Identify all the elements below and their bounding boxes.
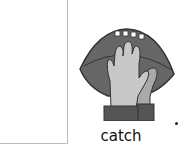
period-mark <box>175 122 178 125</box>
blank-answer-box <box>0 0 68 144</box>
football-catch-icon <box>78 26 176 121</box>
word-label: catch <box>96 127 146 145</box>
